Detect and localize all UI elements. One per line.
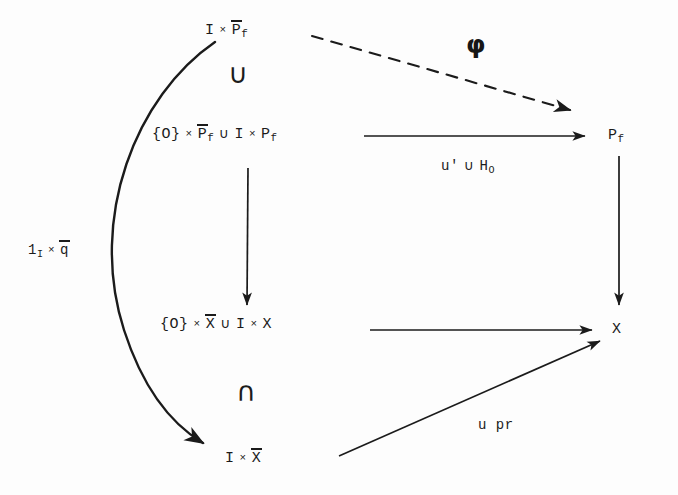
curved-arrow [112, 42, 215, 443]
node-top-right: Pf [608, 128, 624, 145]
intersection-symbol-low: ∩ [236, 378, 256, 405]
node-bottom-left-text: I×X [225, 450, 261, 467]
u-union-h-label-text: u'∪HO [441, 158, 495, 174]
node-low-left-text: {O}×X∪I×X [160, 316, 272, 333]
node-top-left-text: I×Pf [205, 22, 248, 39]
left-vertical-arrow [247, 168, 248, 305]
node-mid-left-text: {O}×Pf∪I×Pf [152, 126, 277, 143]
commutative-diagram: I×Pf ∪ {O}×Pf∪I×Pf {O}×X∪I×X ∩ I×X Pf X … [0, 0, 678, 495]
phi-label: φ [466, 32, 486, 57]
node-top-right-text: Pf [608, 127, 624, 144]
node-bottom-left: I×X [225, 450, 261, 466]
node-bottom-right-text: X [612, 321, 622, 338]
node-low-left: {O}×X∪I×X [160, 316, 272, 332]
node-bottom-right: X [612, 322, 622, 337]
node-mid-left: {O}×Pf∪I×Pf [152, 126, 277, 144]
u-union-h-label: u'∪HO [441, 158, 495, 176]
union-symbol-top: ∪ [228, 60, 248, 87]
one-times-qbar-label-text: 1I×q [28, 242, 69, 258]
phi-arrow [312, 36, 570, 110]
u-pr-label: u pr [478, 418, 514, 432]
node-top-left: I×Pf [205, 22, 248, 40]
one-times-qbar-label: 1I×q [28, 242, 69, 260]
arrow-layer [0, 0, 678, 495]
u-pr-arrow [339, 341, 600, 456]
